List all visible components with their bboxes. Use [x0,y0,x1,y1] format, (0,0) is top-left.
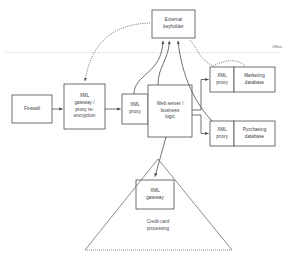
node-xml-proxy-main [122,94,148,124]
node-xml-proxy-marketing [210,67,234,92]
node-marketing-database [234,67,275,92]
arrow-web-server-to-purchasing-proxy [192,115,209,134]
arrow-web-server-to-marketing-proxy [192,80,209,111]
node-xml-proxy-purchasing [210,121,234,146]
dotted-keyholder-to-purchasing-proxy [213,61,245,66]
credit-card-zone-line2: processing [147,226,169,231]
offline-boundary-label: Offline [250,45,282,49]
diagram-canvas: Offline External keyholder Firewall XML … [0,0,288,265]
credit-card-zone-line1: Credit card [147,219,169,224]
dotted-keyholder-to-xml-gateway-reencryption [85,23,150,81]
node-web-server [148,85,192,137]
node-external-keyholder [152,10,195,38]
node-firewall [12,95,52,123]
node-xml-gateway-creditcard [136,180,174,209]
credit-card-zone-label: Credit card processing [118,218,198,232]
node-xml-gateway-reencryption [64,84,105,129]
dotted-keyholder-to-marketing-proxy [190,40,213,66]
arrow-web-server-to-keyholder [158,41,170,85]
arrow-web-server-to-creditcard-gateway [155,137,166,177]
node-purchasing-database [234,121,275,146]
